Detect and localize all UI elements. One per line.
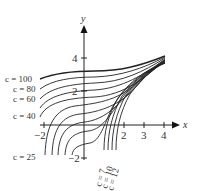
x-axis-label: x xyxy=(182,119,188,130)
x-tick-label-2: 2 xyxy=(121,129,127,141)
label-c-80: c = 80 xyxy=(13,84,36,94)
curve-c-60 xyxy=(40,58,165,99)
y-axis-label: y xyxy=(80,13,86,24)
x-tick-label-4: 4 xyxy=(161,129,167,141)
curve-c-50 xyxy=(40,59,165,108)
solution-curves-chart: x y −2 2 3 4 4 2 −2 c = 100 c = 80 c = 6… xyxy=(0,0,200,191)
curve-c-25 xyxy=(72,62,165,155)
label-c-40: c = 40 xyxy=(13,111,36,121)
y-tick-label-neg2: −2 xyxy=(68,152,80,164)
x-tick-label-3: 3 xyxy=(141,129,147,141)
curve-mid-4 xyxy=(65,62,165,155)
y-tick-label-4: 4 xyxy=(72,52,78,64)
label-c-60: c = 60 xyxy=(13,94,36,104)
curve-c-7 xyxy=(104,63,165,150)
y-axis-arrow-icon xyxy=(81,25,88,33)
x-axis-arrow-icon xyxy=(172,122,180,129)
label-c-25: c = 25 xyxy=(13,152,36,162)
label-c-100: c = 100 xyxy=(5,74,33,84)
x-tick-label-neg2: −2 xyxy=(34,129,46,141)
y-tick-label-2: 2 xyxy=(72,85,78,97)
